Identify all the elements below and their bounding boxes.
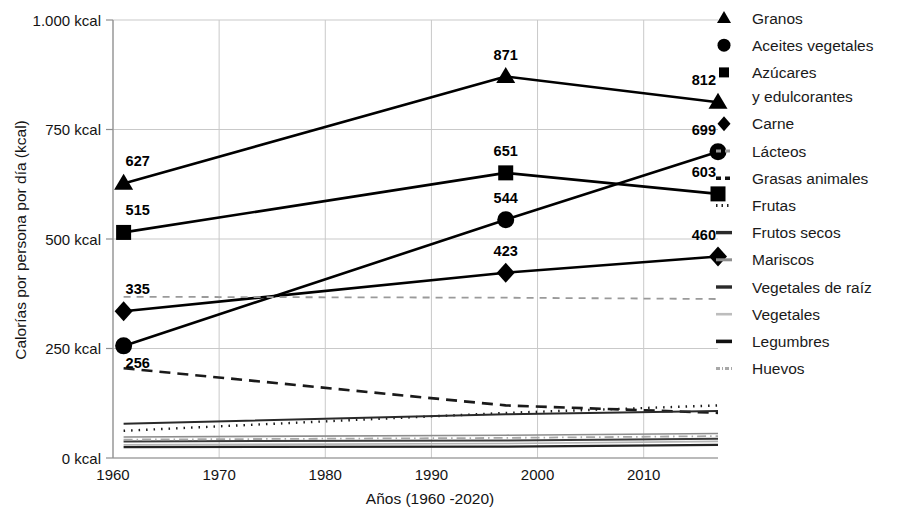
y-axis-ticks: 0 kcal250 kcal500 kcal750 kcal1.000 kcal bbox=[33, 12, 113, 467]
legend-item-label[interactable]: Lácteos bbox=[752, 143, 807, 160]
data-marker-diamond bbox=[709, 247, 727, 267]
legend-item-label[interactable]: Aceites vegetales bbox=[752, 37, 874, 54]
gridlines bbox=[113, 20, 718, 458]
legend: GranosAceites vegetalesAzúcaresy edulcor… bbox=[716, 10, 874, 378]
x-tick-label: 1970 bbox=[202, 466, 235, 483]
data-marker-circle bbox=[497, 211, 514, 228]
x-axis-title: Años (1960 -2020) bbox=[366, 490, 494, 507]
legend-circle-icon bbox=[718, 39, 731, 52]
x-tick-label: 2000 bbox=[521, 466, 554, 483]
legend-triangle-icon bbox=[717, 11, 731, 23]
series-line bbox=[124, 173, 718, 233]
data-point-label: 423 bbox=[494, 243, 518, 259]
data-point-label: 256 bbox=[126, 355, 150, 371]
line-chart-svg: 0 kcal250 kcal500 kcal750 kcal1.000 kcal… bbox=[0, 0, 906, 512]
series-line bbox=[124, 411, 718, 424]
data-point-label: 812 bbox=[692, 72, 716, 88]
y-tick-label: 0 kcal bbox=[62, 450, 101, 467]
legend-item-label[interactable]: Mariscos bbox=[752, 251, 814, 268]
data-marker-square bbox=[711, 186, 726, 201]
legend-square-icon bbox=[719, 67, 729, 77]
data-point-label: 515 bbox=[126, 202, 150, 218]
y-tick-label: 250 kcal bbox=[45, 340, 101, 357]
data-point-label: 651 bbox=[494, 143, 518, 159]
x-tick-label: 1980 bbox=[309, 466, 342, 483]
data-marker-triangle bbox=[496, 67, 515, 83]
x-tick-label: 2010 bbox=[627, 466, 660, 483]
data-marker-square bbox=[498, 165, 513, 180]
legend-item-label[interactable]: Carne bbox=[752, 115, 794, 132]
legend-item-label[interactable]: Vegetales de raíz bbox=[752, 279, 872, 296]
data-point-label: 460 bbox=[692, 227, 716, 243]
data-point-labels: 627871812256544699515651603335423460 bbox=[126, 47, 716, 371]
data-marker-diamond bbox=[497, 263, 515, 283]
series-line bbox=[124, 257, 718, 312]
data-point-label: 871 bbox=[494, 47, 518, 63]
series-markers bbox=[114, 67, 727, 354]
series-line bbox=[124, 297, 718, 299]
x-tick-label: 1990 bbox=[415, 466, 448, 483]
series-line bbox=[124, 152, 718, 346]
data-point-label: 627 bbox=[126, 153, 150, 169]
x-axis-ticks: 196019701980199020002010 bbox=[96, 466, 660, 483]
data-marker-diamond bbox=[115, 301, 133, 321]
y-axis-title: Calorías por persona por día (kcal) bbox=[12, 120, 29, 360]
y-tick-label: 1.000 kcal bbox=[33, 12, 101, 29]
data-point-label: 544 bbox=[494, 190, 518, 206]
data-point-label: 603 bbox=[692, 164, 716, 180]
series-lines bbox=[124, 77, 718, 448]
legend-item-label[interactable]: Grasas animales bbox=[752, 170, 869, 187]
legend-item-label-cont[interactable]: y edulcorantes bbox=[752, 88, 853, 105]
y-tick-label: 750 kcal bbox=[45, 121, 101, 138]
legend-item-label[interactable]: Azúcares bbox=[752, 64, 817, 81]
legend-diamond-icon bbox=[718, 116, 731, 131]
data-point-label: 699 bbox=[692, 122, 716, 138]
legend-item-label[interactable]: Legumbres bbox=[752, 333, 830, 350]
legend-item-label[interactable]: Granos bbox=[752, 10, 803, 27]
legend-item-label[interactable]: Huevos bbox=[752, 360, 805, 377]
legend-item-label[interactable]: Vegetales bbox=[752, 306, 820, 323]
chart-figure: 0 kcal250 kcal500 kcal750 kcal1.000 kcal… bbox=[0, 0, 906, 512]
data-point-label: 335 bbox=[126, 281, 150, 297]
y-tick-label: 500 kcal bbox=[45, 231, 101, 248]
data-marker-square bbox=[116, 225, 131, 240]
legend-item-label[interactable]: Frutos secos bbox=[752, 224, 841, 241]
series-line bbox=[124, 368, 718, 413]
legend-item-label[interactable]: Frutas bbox=[752, 197, 796, 214]
data-marker-circle bbox=[115, 337, 132, 354]
x-tick-label: 1960 bbox=[96, 466, 129, 483]
